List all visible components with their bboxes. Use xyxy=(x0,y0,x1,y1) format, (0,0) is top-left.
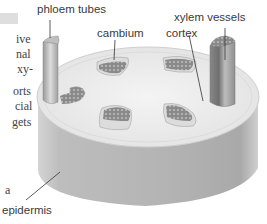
label-phloem-tubes: phloem tubes xyxy=(37,4,106,16)
xylem-vessel xyxy=(210,36,235,107)
diagram: ive nal xy- orts cial gets a xyxy=(0,0,267,224)
label-cambium: cambium xyxy=(97,28,144,40)
label-epidermis: epidermis xyxy=(2,205,52,217)
label-xylem-vessels: xylem vessels xyxy=(174,12,246,24)
label-cortex: cortex xyxy=(166,28,197,40)
